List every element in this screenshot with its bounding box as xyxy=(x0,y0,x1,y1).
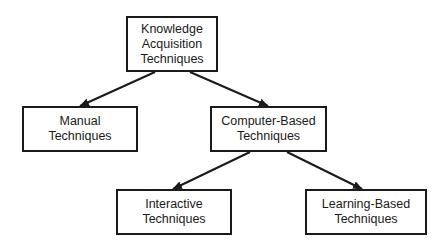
node-label-line: Techniques xyxy=(334,212,397,227)
arrow-root-to-manual xyxy=(80,72,155,106)
node-label-line: Learning-Based xyxy=(322,197,410,212)
node-label-line: Computer-Based xyxy=(221,114,316,129)
node-computer-based-techniques: Computer-Based Techniques xyxy=(210,106,327,152)
node-interactive-techniques: Interactive Techniques xyxy=(116,189,232,235)
node-label-line: Interactive xyxy=(145,197,203,212)
node-label-line: Techniques xyxy=(142,212,205,227)
node-label-line: Techniques xyxy=(140,52,203,67)
arrow-root-to-computer xyxy=(190,72,268,106)
node-learning-based-techniques: Learning-Based Techniques xyxy=(305,189,427,235)
node-manual-techniques: Manual Techniques xyxy=(22,106,138,152)
node-label-line: Manual xyxy=(60,114,101,129)
node-label-line: Techniques xyxy=(48,129,111,144)
node-label-line: Techniques xyxy=(237,129,300,144)
arrow-computer-to-learning xyxy=(287,152,362,189)
arrow-computer-to-interactive xyxy=(173,152,250,189)
node-label-line: Knowledge xyxy=(141,22,203,37)
node-label-line: Acquisition xyxy=(142,37,202,52)
node-knowledge-acquisition-techniques: Knowledge Acquisition Techniques xyxy=(126,16,218,72)
